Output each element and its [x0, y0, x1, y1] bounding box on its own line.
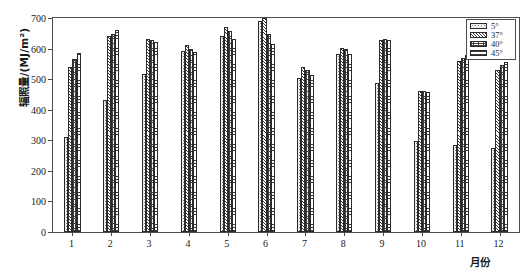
y-axis-tick [48, 201, 53, 202]
y-axis-title: 辐照量/(MJ/m²) [16, 0, 31, 143]
y-axis-tick [48, 18, 53, 19]
bar [271, 44, 275, 232]
bar [348, 54, 352, 232]
irradiance-bar-chart: 辐照量/(MJ/m²) 0100200300400500600700 月份 5°… [0, 0, 527, 277]
x-axis-tick [72, 232, 73, 236]
bar [115, 30, 119, 232]
plot-frame: 0100200300400500600700 [52, 17, 520, 233]
y-axis-tick [48, 232, 53, 233]
y-axis-tick [48, 140, 53, 141]
legend-item[interactable]: 45° [470, 49, 513, 57]
y-axis-tick-label: 400 [31, 104, 46, 115]
legend-swatch-icon [470, 41, 487, 47]
x-axis-tick-label: 10 [416, 238, 426, 249]
y-axis-tick [48, 171, 53, 172]
bar [310, 75, 314, 232]
bar [154, 42, 158, 232]
x-axis-tick [228, 232, 229, 236]
y-axis-tick-label: 100 [31, 196, 46, 207]
legend-item-label: 40° [491, 40, 503, 48]
bar [465, 55, 469, 232]
y-axis-tick-label: 500 [31, 74, 46, 85]
legend-swatch-icon [470, 23, 487, 29]
bar [387, 40, 391, 232]
x-axis-tick [383, 232, 384, 236]
legend: 5°37°40°45° [466, 19, 516, 60]
x-axis-tick [111, 232, 112, 236]
x-axis-tick [150, 232, 151, 236]
bar [193, 52, 197, 232]
x-axis-tick-label: 6 [263, 238, 268, 249]
x-axis-tick-label: 8 [341, 238, 346, 249]
y-axis-tick-label: 200 [31, 165, 46, 176]
x-axis-tick [461, 232, 462, 236]
x-axis-tick [267, 232, 268, 236]
legend-swatch-icon [470, 50, 487, 56]
x-axis-tick [500, 232, 501, 236]
y-axis-tick [48, 110, 53, 111]
y-axis-tick [48, 79, 53, 80]
x-axis-tick-label: 12 [494, 238, 504, 249]
bar [426, 92, 430, 232]
x-axis-tick [422, 232, 423, 236]
bar [504, 62, 508, 232]
x-axis-tick-label: 2 [108, 238, 113, 249]
legend-swatch-icon [470, 32, 487, 38]
x-axis-tick [305, 232, 306, 236]
legend-item-label: 37° [491, 31, 503, 39]
x-axis-tick-label: 1 [69, 238, 74, 249]
y-axis-tick-label: 0 [41, 227, 46, 238]
x-axis-tick-label: 5 [224, 238, 229, 249]
x-axis-tick-label: 7 [302, 238, 307, 249]
legend-item-label: 45° [491, 49, 503, 57]
plot-area: 0100200300400500600700 [53, 18, 519, 232]
legend-item-label: 5° [491, 22, 499, 30]
x-axis-tick-label: 11 [455, 238, 465, 249]
legend-item[interactable]: 5° [470, 22, 513, 30]
x-axis-tick [344, 232, 345, 236]
bar [77, 53, 81, 232]
y-axis-tick-label: 300 [31, 135, 46, 146]
bar [232, 39, 236, 232]
x-axis-tick-label: 4 [185, 238, 190, 249]
x-axis-tick-label: 3 [147, 238, 152, 249]
y-axis-tick-label: 600 [31, 43, 46, 54]
y-axis-tick-label: 700 [31, 13, 46, 24]
y-axis-tick [48, 49, 53, 50]
legend-item[interactable]: 37° [470, 31, 513, 39]
x-axis-tick-label: 9 [380, 238, 385, 249]
legend-item[interactable]: 40° [470, 40, 513, 48]
x-axis-title: 月份 [470, 254, 490, 269]
x-axis-tick [189, 232, 190, 236]
